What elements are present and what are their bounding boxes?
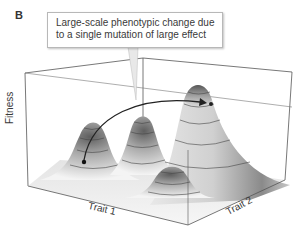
- fitness-axis-label: Fitness: [4, 92, 15, 124]
- callout-line-1: Large-scale phenotypic change due: [56, 17, 222, 29]
- end-dot: [209, 102, 213, 106]
- start-dot: [82, 160, 86, 164]
- middle-peak: [110, 117, 178, 176]
- callout-pointer: [128, 47, 138, 100]
- callout-line-2: to a single mutation of large effect: [56, 29, 222, 41]
- callout-box: Large-scale phenotypic change due to a s…: [47, 12, 223, 48]
